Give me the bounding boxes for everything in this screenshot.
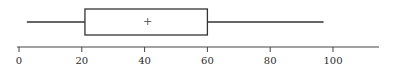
x-tick-label: 20: [75, 55, 88, 66]
x-tick-label: 60: [201, 55, 214, 66]
mean-plus-icon: [144, 18, 151, 25]
x-tick-label: 40: [138, 55, 151, 66]
x-axis: 020406080100: [16, 47, 379, 66]
box-plot-chart: 020406080100: [0, 0, 395, 71]
x-tick-label: 100: [323, 55, 342, 66]
x-tick-label: 0: [16, 55, 22, 66]
x-tick-label: 80: [264, 55, 277, 66]
plot-area: [27, 9, 324, 35]
iqr-box: [85, 9, 207, 35]
